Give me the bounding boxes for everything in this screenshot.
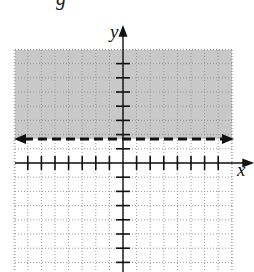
- coordinate-plane: [0, 0, 254, 272]
- inequality-graph: g y x: [0, 0, 254, 272]
- y-axis-label: y: [110, 22, 118, 41]
- x-axis-label: x: [237, 160, 245, 179]
- y-axis-arrow-icon: [120, 27, 127, 36]
